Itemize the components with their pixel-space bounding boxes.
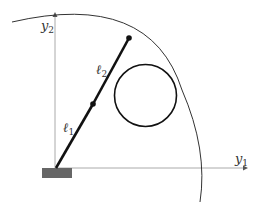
robot-base <box>42 168 72 178</box>
link-2-label: ℓ2 <box>96 62 107 79</box>
end-effector <box>126 35 132 41</box>
y2-axis-label: y2 <box>40 18 54 35</box>
link-1-label: ℓ1 <box>63 120 74 137</box>
y1-axis-label: y1 <box>234 151 248 168</box>
obstacle-circle <box>115 65 177 127</box>
elbow-joint <box>90 101 96 107</box>
robot-arm-diagram: y2 y1 ℓ2 ℓ1 <box>0 0 261 212</box>
link-1 <box>56 104 93 168</box>
